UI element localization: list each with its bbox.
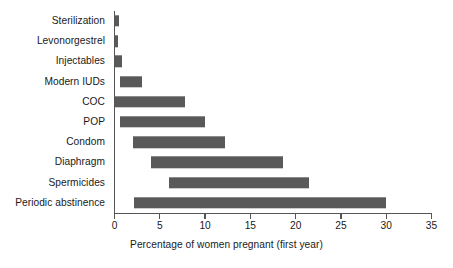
- x-tick-label-15: 15: [245, 221, 256, 231]
- x-tick-label-30: 30: [381, 221, 392, 231]
- x-tick-label-5: 5: [157, 221, 163, 231]
- x-axis-title: Percentage of women pregnant (first year…: [0, 240, 453, 250]
- x-tick-label-10: 10: [199, 221, 210, 231]
- x-axis-ticks: 05101520253035: [0, 0, 453, 268]
- bar-chart-figure: SterilizationLevonorgestrelInjectablesMo…: [0, 0, 453, 268]
- x-tick-mark-5: [159, 214, 160, 220]
- x-tick-mark-20: [295, 214, 296, 220]
- x-tick-label-0: 0: [112, 221, 118, 231]
- x-tick-mark-10: [204, 214, 205, 220]
- x-tick-mark-15: [250, 214, 251, 220]
- x-tick-mark-25: [340, 214, 341, 220]
- plot-area: SterilizationLevonorgestrelInjectablesMo…: [0, 0, 453, 268]
- x-tick-mark-0: [114, 214, 115, 220]
- x-tick-label-20: 20: [290, 221, 301, 231]
- x-tick-mark-30: [386, 214, 387, 220]
- x-tick-label-35: 35: [426, 221, 437, 231]
- x-tick-label-25: 25: [335, 221, 346, 231]
- x-tick-mark-35: [431, 214, 432, 220]
